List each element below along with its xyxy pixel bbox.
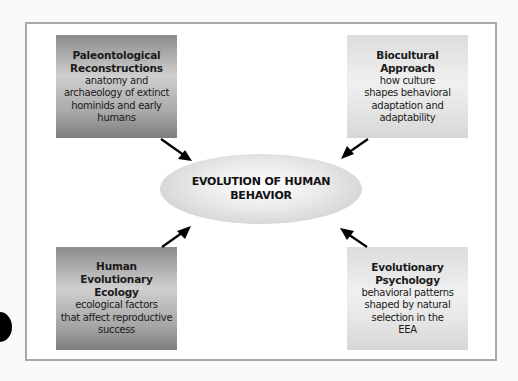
box-description: archaeology of extinct [64, 87, 169, 100]
box-title: Evolutionary [80, 273, 152, 286]
box-description: EEA [398, 324, 417, 337]
box-description: that affect reproductive [61, 312, 173, 325]
box-description: shapes behavioral [364, 87, 450, 100]
box-description: behavioral patterns [361, 287, 453, 300]
black-dot-marker [0, 312, 12, 342]
box-title: Human [96, 260, 137, 273]
box-title: Ecology [94, 286, 138, 299]
box-human-evolutionary-ecology: Human Evolutionary Ecology ecological fa… [56, 247, 177, 350]
box-description: how culture [380, 75, 435, 88]
box-description: ecological factors [75, 299, 157, 312]
central-concept-line2: BEHAVIOR [230, 189, 292, 203]
box-title: Psychology [375, 274, 440, 287]
box-description: success [98, 324, 135, 337]
box-title: Evolutionary [371, 261, 443, 274]
box-description: adaptation and [372, 100, 444, 113]
box-description: selection in the [371, 312, 443, 325]
box-description: humans [97, 112, 135, 125]
box-title: Reconstructions [70, 62, 163, 75]
box-description: hominids and early [71, 100, 162, 113]
box-evolutionary-psychology: Evolutionary Psychology behavioral patte… [347, 247, 468, 350]
box-description: shaped by natural [365, 299, 451, 312]
box-title: Approach [380, 62, 435, 75]
box-description: anatomy and [85, 75, 148, 88]
box-title: Biocultural [376, 49, 438, 62]
box-title: Paleontological [73, 49, 161, 62]
central-concept-line1: EVOLUTION OF HUMAN [192, 175, 331, 189]
box-paleontological-reconstructions: Paleontological Reconstructions anatomy … [56, 35, 177, 138]
box-biocultural-approach: Biocultural Approach how culture shapes … [347, 35, 468, 138]
central-concept-ellipse: EVOLUTION OF HUMAN BEHAVIOR [160, 154, 362, 224]
box-description: adaptability [380, 112, 436, 125]
